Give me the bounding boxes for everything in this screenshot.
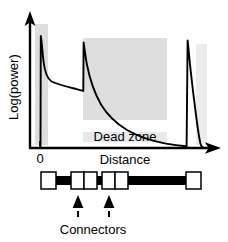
connectors-label: Connectors (60, 222, 127, 237)
connector-pointers-group (73, 195, 115, 217)
connector-block-launch (41, 172, 56, 189)
fiber-span-1 (55, 176, 72, 185)
fiber-span-3 (127, 176, 187, 185)
connector-block-3a (102, 172, 115, 189)
connector-block-3b (115, 172, 128, 189)
connector-pointer-right-arrow-icon (104, 195, 115, 208)
x-axis-label: Distance (100, 152, 151, 167)
fiber-cable-diagram (41, 172, 201, 189)
connector-block-2a (71, 172, 84, 189)
connector-block-end (186, 172, 201, 189)
otdr-diagram: Log(power) 0 Distance Dead zone (0, 0, 228, 242)
y-axis-label: Log(power) (6, 54, 21, 120)
otdr-figure: Log(power) 0 Distance Dead zone (0, 0, 228, 242)
connector-dead-zone-shade (83, 38, 167, 120)
connector-block-2b (84, 172, 97, 189)
x-origin-tick-label: 0 (36, 151, 43, 166)
dead-zone-label: Dead zone (94, 129, 157, 144)
connector-pointer-left-arrow-icon (73, 195, 84, 208)
